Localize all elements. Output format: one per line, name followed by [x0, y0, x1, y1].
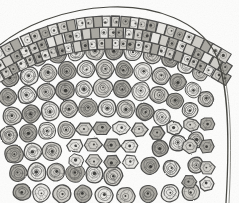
- cortex-cell: [37, 84, 55, 101]
- cortex-cell: [79, 98, 98, 117]
- epidermal-cell: [99, 27, 108, 38]
- epidermal-cell: [88, 39, 97, 51]
- tissue-cross-section-illustration: [0, 0, 239, 203]
- epidermal-cell: [66, 19, 76, 31]
- cortex-cell: [53, 185, 71, 203]
- epidermal-cell: [120, 16, 130, 28]
- cortex-cell: [167, 93, 184, 109]
- cortex-cell: [182, 102, 198, 117]
- epidermal-cell: [102, 16, 110, 27]
- cortex-cell: [117, 100, 136, 118]
- cortex-cell: [134, 63, 152, 81]
- angular-cell: [69, 154, 84, 168]
- cortex-cell: [5, 145, 24, 163]
- cortex-cell: [150, 87, 169, 103]
- cortex-cell: [56, 81, 75, 100]
- cortex-cell: [13, 184, 31, 200]
- epidermal-cell: [116, 27, 124, 38]
- cortex-cell: [98, 99, 116, 117]
- histology-figure: [0, 0, 239, 203]
- cortex-cell: [47, 163, 64, 181]
- epidermal-cell: [125, 28, 134, 40]
- cortex-cell: [3, 107, 22, 125]
- cortex-cell: [28, 163, 46, 182]
- cortex-cell: [77, 61, 95, 78]
- cortex-cell: [95, 187, 113, 203]
- angular-cell: [199, 140, 214, 153]
- cortex-cell: [198, 92, 214, 107]
- cortex-cell: [41, 102, 59, 121]
- epidermal-cell: [135, 40, 144, 52]
- cortex-cell: [132, 82, 150, 101]
- cortex-cell: [42, 142, 61, 160]
- epidermal-cell: [90, 27, 100, 39]
- cortex-cell: [60, 100, 78, 118]
- cortex-cell: [86, 165, 103, 183]
- cortex-cell: [39, 122, 56, 139]
- epidermal-cell: [85, 17, 94, 29]
- cortex-cell: [20, 124, 38, 142]
- angular-cell: [200, 118, 214, 130]
- epidermal-cell: [111, 16, 119, 27]
- epidermal-cell: [82, 28, 91, 40]
- epidermal-cell: [93, 16, 103, 28]
- cortex-cell: [0, 126, 17, 144]
- epidermal-cell: [104, 38, 112, 49]
- cortex-cell: [161, 185, 179, 202]
- cortex-cell: [117, 188, 136, 203]
- cortex-cell: [152, 140, 168, 156]
- epidermal-cell: [138, 18, 148, 30]
